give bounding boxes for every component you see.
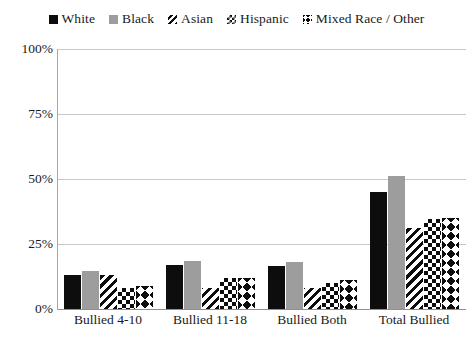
bar — [238, 278, 255, 309]
y-axis: 0%25%50%75%100% — [0, 49, 53, 310]
bar — [424, 219, 441, 309]
bar — [388, 176, 405, 309]
bar — [220, 278, 237, 309]
y-axis-tick-label: 0% — [1, 302, 53, 316]
bar — [118, 288, 135, 309]
diagonal-hatch-icon — [168, 15, 177, 24]
bar-group — [261, 49, 363, 309]
bar — [268, 266, 285, 309]
bar — [202, 288, 219, 309]
square-black-icon — [49, 15, 58, 24]
y-axis-tick-label: 50% — [1, 172, 53, 186]
bar-series-container — [57, 49, 465, 310]
legend-item-asian: Asian — [168, 12, 213, 26]
y-axis-tick-label: 75% — [1, 107, 53, 121]
bar-group — [363, 49, 465, 309]
legend-item-label: Asian — [181, 12, 213, 26]
bar — [340, 280, 357, 309]
x-axis-tick-label: Bullied 4-10 — [74, 313, 142, 327]
chart-legend: WhiteBlackAsianHispanicMixed Race / Othe… — [0, 7, 473, 31]
x-axis-tick-label: Total Bullied — [379, 313, 450, 327]
bar — [286, 262, 303, 309]
bar — [82, 271, 99, 309]
legend-item-mixed-race-other: Mixed Race / Other — [303, 12, 425, 26]
x-axis-tick-label: Bullied 11-18 — [173, 313, 247, 327]
bar — [370, 192, 387, 309]
bar — [406, 228, 423, 309]
bar — [64, 275, 81, 309]
checkerboard-icon — [227, 15, 236, 24]
x-axis: Bullied 4-10Bullied 11-18Bullied BothTot… — [57, 313, 465, 337]
legend-item-label: Black — [122, 12, 154, 26]
bar — [136, 286, 153, 309]
legend-item-label: White — [62, 12, 96, 26]
bar-group — [159, 49, 261, 309]
legend-item-label: Hispanic — [240, 12, 289, 26]
bar — [322, 283, 339, 309]
bar — [304, 288, 321, 309]
diamond-pattern-icon — [303, 15, 312, 24]
legend-item-hispanic: Hispanic — [227, 12, 289, 26]
legend-item-white: White — [49, 12, 96, 26]
y-axis-tick-label: 25% — [1, 237, 53, 251]
bar-group — [57, 49, 159, 309]
bar — [442, 218, 459, 309]
square-gray-icon — [109, 15, 118, 24]
legend-item-label: Mixed Race / Other — [316, 12, 425, 26]
x-axis-tick-label: Bullied Both — [277, 313, 346, 327]
bar — [100, 275, 117, 309]
y-axis-tick-label: 100% — [1, 42, 53, 56]
legend-item-black: Black — [109, 12, 154, 26]
bar — [166, 265, 183, 309]
bar — [184, 261, 201, 309]
